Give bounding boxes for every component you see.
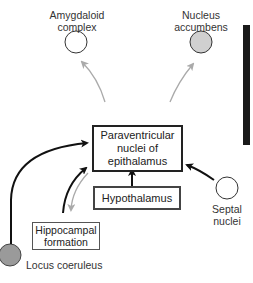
amygdaloid-label-line2: complex [46, 21, 108, 33]
paraventricular-line2: nuclei of [101, 142, 175, 155]
accumbens-label: Nucleus accumbens [165, 9, 237, 33]
arrow-to-hippocampal [71, 173, 88, 210]
accumbens-node [190, 31, 212, 53]
arrow-from-septal [187, 165, 214, 180]
hippocampal-box: Hippocampal formation [32, 222, 100, 250]
accumbens-label-line2: accumbens [165, 21, 237, 33]
paraventricular-box: Paraventricular nuclei of epithalamus [92, 125, 183, 172]
hypothalamus-box: Hypothalamus [93, 186, 181, 210]
accumbens-label-line1: Nucleus [165, 9, 237, 21]
paraventricular-line3: epithalamus [101, 155, 175, 168]
locus-node [0, 244, 21, 266]
arrow-to-accumbens [170, 64, 193, 102]
hippocampal-line1: Hippocampal [35, 224, 96, 236]
septal-node [216, 177, 238, 199]
septal-label-line1: Septal [202, 203, 252, 215]
locus-label: Locus coeruleus [26, 259, 108, 271]
arrow-to-amygdaloid [82, 62, 105, 102]
arrow-from-hippocampal [63, 168, 86, 213]
amygdaloid-node [65, 31, 87, 53]
amygdaloid-label: Amygdaloid complex [46, 9, 108, 33]
septal-label: Septal nuclei [202, 203, 252, 227]
hippocampal-line2: formation [35, 236, 96, 248]
septal-label-line2: nuclei [202, 215, 252, 227]
paraventricular-line1: Paraventricular [101, 129, 175, 142]
hypothalamus-label: Hypothalamus [102, 192, 172, 204]
amygdaloid-label-line1: Amygdaloid [46, 9, 108, 21]
edge-bar [243, 25, 250, 145]
locus-label-text: Locus coeruleus [26, 259, 102, 271]
